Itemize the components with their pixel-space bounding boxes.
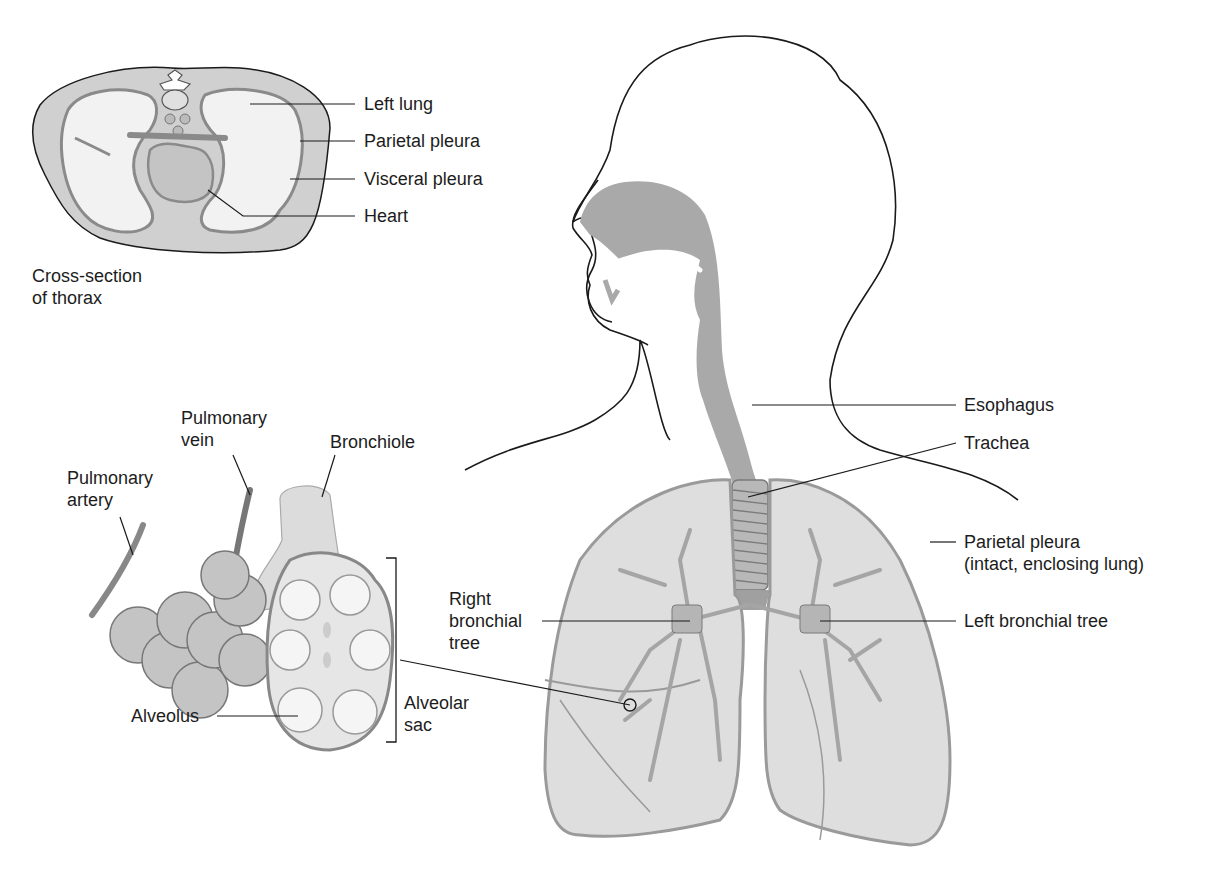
head-torso-outline: [465, 36, 1018, 500]
label-alveolar-sac-2: sac: [404, 715, 432, 736]
label-esophagus: Esophagus: [964, 395, 1054, 416]
label-pulmonary-vein-1: Pulmonary: [181, 408, 267, 429]
label-left-bronchial-tree: Left bronchial tree: [964, 611, 1108, 632]
thorax-cross-section: [33, 67, 355, 252]
label-right-bronchial-3: tree: [449, 633, 480, 654]
label-trachea: Trachea: [964, 433, 1029, 454]
label-alveolar-sac-1: Alveolar: [404, 693, 469, 714]
caption-of-thorax: of thorax: [32, 288, 102, 309]
label-alveolus: Alveolus: [131, 706, 199, 727]
label-left-lung: Left lung: [364, 94, 433, 115]
label-visceral-pleura: Visceral pleura: [364, 169, 483, 190]
label-heart: Heart: [364, 206, 408, 227]
label-pulmonary-artery-2: artery: [67, 490, 113, 511]
label-right-bronchial-1: Right: [449, 589, 491, 610]
label-parietal-pleura-1: Parietal pleura: [964, 532, 1080, 553]
label-right-bronchial-2: bronchial: [449, 611, 522, 632]
label-bronchiole: Bronchiole: [330, 432, 415, 453]
label-parietal-pleura-thorax: Parietal pleura: [364, 131, 480, 152]
label-parietal-pleura-2: (intact, enclosing lung): [964, 554, 1144, 575]
label-pulmonary-artery-1: Pulmonary: [67, 468, 153, 489]
caption-cross-section: Cross-section: [32, 266, 142, 287]
label-pulmonary-vein-2: vein: [181, 430, 214, 451]
